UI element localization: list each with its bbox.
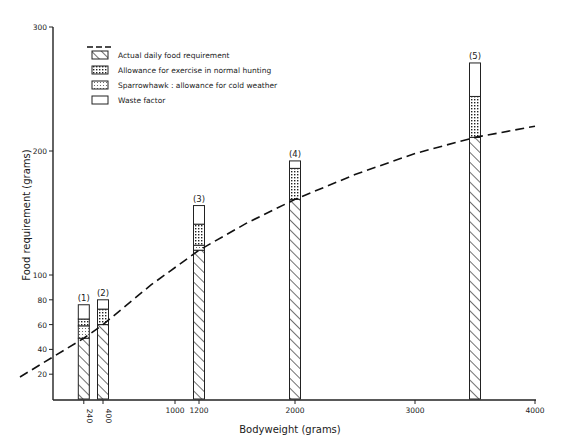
segment-actual: [78, 338, 89, 399]
x-axis-label: Bodyweight (grams): [239, 424, 341, 435]
bar-5: (5): [469, 51, 481, 399]
bar-label: (5): [469, 51, 481, 61]
chart: 2040608010020030024040010001200200030004…: [0, 0, 564, 447]
legend-label: Waste factor: [118, 96, 166, 105]
legend-item-exercise: Allowance for exercise in normal hunting: [92, 66, 271, 75]
bar-2: (2): [97, 288, 109, 399]
bar-1: (1): [78, 293, 90, 399]
x-tick-label: 1200: [189, 406, 208, 415]
legend-item-waste: Waste factor: [92, 96, 166, 105]
segment-waste: [78, 305, 89, 319]
x-tick-label: 2000: [285, 406, 304, 415]
legend-swatch: [92, 51, 108, 59]
legend-label: Actual daily food requirement: [118, 51, 230, 60]
segment-exercise: [290, 168, 301, 199]
y-axis-label: Food requirement (grams): [21, 149, 32, 280]
x-tick-label: 3000: [405, 406, 424, 415]
legend-label: Allowance for exercise in normal hunting: [118, 66, 271, 75]
y-tick-label: 40: [37, 345, 47, 354]
segment-exercise: [78, 319, 89, 326]
y-tick-label: 60: [37, 321, 47, 330]
segment-actual: [470, 137, 481, 399]
x-tick-label: 240: [85, 409, 94, 424]
legend-label: Sparrowhawk : allowance for cold weather: [118, 81, 278, 90]
legend-swatch: [92, 66, 108, 74]
segment-waste: [290, 161, 301, 168]
bar-3: (3): [193, 194, 205, 399]
x-tick-label: 4000: [525, 406, 544, 415]
bar-label: (4): [289, 149, 301, 159]
bar-label: (3): [193, 194, 205, 204]
segment-exercise: [470, 96, 481, 137]
axes: 2040608010020030024040010001200200030004…: [33, 23, 545, 423]
bar-4: (4): [289, 149, 301, 399]
y-tick-label: 100: [33, 271, 48, 280]
legend-swatch: [92, 81, 108, 89]
legend-item-cold: Sparrowhawk : allowance for cold weather: [92, 81, 278, 90]
y-tick-label: 80: [37, 296, 47, 305]
y-tick-label: 300: [33, 23, 48, 32]
legend-swatch: [92, 96, 108, 104]
segment-exercise: [194, 224, 205, 245]
legend-item-actual: Actual daily food requirement: [92, 51, 230, 60]
segment-waste: [98, 300, 109, 309]
segment-waste: [470, 63, 481, 96]
bar-label: (1): [78, 293, 90, 303]
bar-label: (2): [97, 288, 109, 298]
segment-actual: [98, 325, 109, 399]
y-tick-label: 200: [33, 147, 48, 156]
x-tick-label: 400: [104, 409, 113, 424]
segment-waste: [194, 206, 205, 225]
segment-actual: [194, 250, 205, 399]
x-tick-label: 1000: [165, 406, 184, 415]
y-tick-label: 20: [37, 370, 47, 379]
legend: Actual daily food requirementAllowance f…: [87, 47, 278, 105]
segment-actual: [290, 199, 301, 399]
